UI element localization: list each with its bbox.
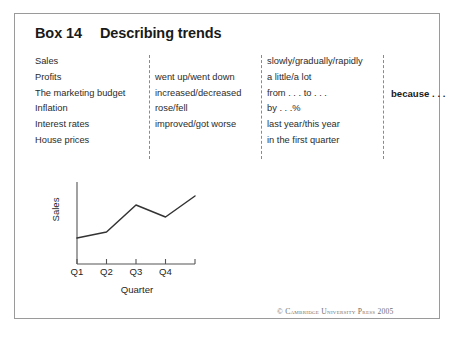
table-column-subjects: Sales Profits The marketing budget Infla… — [35, 54, 145, 149]
list-item: because . . . — [391, 86, 451, 102]
copyright-year: 2005 — [377, 307, 393, 316]
list-item: House prices — [35, 133, 145, 149]
column-divider-2 — [261, 55, 262, 159]
box-frame: Box 14 Describing trends Sales Profits T… — [14, 13, 440, 319]
x-tick-label-q3: Q3 — [125, 266, 147, 277]
x-axis-ticks — [77, 259, 195, 264]
x-axis-label: Quarter — [77, 284, 197, 295]
list-item: Sales — [35, 54, 145, 70]
list-item: went up/went down — [155, 70, 259, 86]
page-title: Describing trends — [100, 25, 222, 41]
list-item: in the first quarter — [267, 133, 385, 149]
table-column-conjunction: because . . . — [391, 54, 451, 101]
copyright-notice: © Cambridge University Press 2005 — [277, 307, 394, 316]
data-series-line — [77, 196, 195, 238]
y-axis-label: Sales — [50, 180, 61, 240]
list-item: improved/got worse — [155, 117, 259, 133]
x-tick-label-q4: Q4 — [155, 266, 177, 277]
phrase-table: Sales Profits The marketing budget Infla… — [35, 54, 425, 162]
list-item: a little/a lot — [267, 70, 385, 86]
list-item: last year/this year — [267, 117, 385, 133]
list-item: from . . . to . . . — [267, 86, 385, 102]
list-item: Profits — [35, 70, 145, 86]
x-tick-label-q1: Q1 — [66, 266, 88, 277]
copyright-publisher: Cambridge University Press — [285, 307, 375, 316]
chart-plot — [43, 180, 223, 300]
list-item: increased/decreased — [155, 86, 259, 102]
x-tick-label-q2: Q2 — [96, 266, 118, 277]
list-item: rose/fell — [155, 101, 259, 117]
list-item: slowly/gradually/rapidly — [267, 54, 385, 70]
list-item: Interest rates — [35, 117, 145, 133]
copyright-symbol: © — [277, 307, 283, 316]
box-number: Box 14 — [35, 25, 82, 41]
box-header: Box 14 Describing trends — [35, 25, 222, 41]
list-item: The marketing budget — [35, 86, 145, 102]
table-column-adverbials: slowly/gradually/rapidly a little/a lot … — [267, 54, 385, 149]
column-divider-1 — [149, 55, 150, 159]
list-item: by . . .% — [267, 101, 385, 117]
list-item: Inflation — [35, 101, 145, 117]
table-column-verbs: went up/went down increased/decreased ro… — [155, 54, 259, 133]
sales-line-chart: Sales Q1 Q2 Q3 Q4 Quarter — [43, 180, 223, 300]
